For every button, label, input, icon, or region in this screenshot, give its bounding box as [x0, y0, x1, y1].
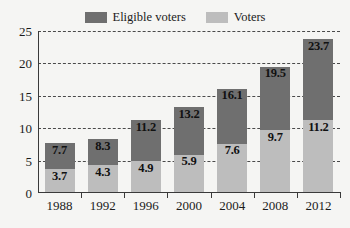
legend-label-eligible-voters: Eligible voters — [113, 11, 186, 24]
y-tick-label: 10 — [0, 122, 32, 135]
x-tick — [340, 193, 341, 198]
bar-value-label-eligible-voters: 23.7 — [303, 40, 333, 53]
x-tick-label: 2000 — [167, 199, 210, 212]
chart-figure: Eligible voters Voters 0510152025 7.73.7… — [0, 0, 350, 228]
bar-group[interactable]: 23.711.2 — [303, 39, 333, 193]
x-tick — [211, 193, 212, 198]
bar-group[interactable]: 19.59.7 — [260, 67, 290, 193]
bar-value-label-voters: 4.3 — [88, 166, 118, 179]
legend-label-voters: Voters — [234, 11, 266, 24]
x-tick-label: 2012 — [297, 199, 340, 212]
bar-value-label-voters: 11.2 — [303, 121, 333, 134]
bar-value-label-eligible-voters: 8.3 — [88, 140, 118, 153]
bar-value-label-eligible-voters: 16.1 — [217, 89, 247, 102]
x-tick-label: 1996 — [124, 199, 167, 212]
y-tick-label: 20 — [0, 57, 32, 70]
x-axis-line — [38, 192, 341, 193]
legend-swatch-eligible-voters — [85, 12, 107, 23]
bar-value-label-eligible-voters: 19.5 — [260, 67, 290, 80]
x-tick-label: 1988 — [38, 199, 81, 212]
y-axis-tick-labels: 0510152025 — [0, 0, 34, 228]
y-axis-line — [38, 31, 39, 193]
legend-entry-voters: Voters — [206, 11, 266, 24]
y-tick-label: 0 — [0, 187, 32, 200]
x-tick — [254, 193, 255, 198]
bar-value-label-voters: 5.9 — [174, 155, 204, 168]
legend-entry-eligible-voters: Eligible voters — [85, 11, 186, 24]
bar-group[interactable]: 13.25.9 — [174, 107, 204, 193]
x-tick-label: 2004 — [211, 199, 254, 212]
bar-value-label-eligible-voters: 11.2 — [131, 121, 161, 134]
x-tick — [81, 193, 82, 198]
plot-area: 7.73.78.34.311.24.913.25.916.17.619.59.7… — [38, 31, 340, 193]
bar-value-label-eligible-voters: 7.7 — [45, 144, 75, 157]
bar-group[interactable]: 7.73.7 — [45, 143, 75, 193]
x-tick-label: 1992 — [81, 199, 124, 212]
bar-value-label-voters: 3.7 — [45, 170, 75, 183]
bar-group[interactable]: 8.34.3 — [88, 139, 118, 193]
gridline — [38, 31, 340, 32]
x-tick — [297, 193, 298, 198]
bar-value-label-voters: 9.7 — [260, 131, 290, 144]
y-tick-label: 15 — [0, 90, 32, 103]
x-tick-label: 2008 — [254, 199, 297, 212]
bar-value-label-voters: 7.6 — [217, 144, 247, 157]
chart-legend: Eligible voters Voters — [0, 8, 350, 26]
gridline — [38, 96, 340, 97]
y-tick-label: 5 — [0, 155, 32, 168]
x-tick — [124, 193, 125, 198]
x-tick — [167, 193, 168, 198]
y-tick-label: 25 — [0, 25, 32, 38]
bar-group[interactable]: 16.17.6 — [217, 89, 247, 193]
gridline — [38, 63, 340, 64]
bar-group[interactable]: 11.24.9 — [131, 120, 161, 193]
bar-value-label-voters: 4.9 — [131, 162, 161, 175]
bar-value-label-eligible-voters: 13.2 — [174, 108, 204, 121]
legend-swatch-voters — [206, 12, 228, 23]
